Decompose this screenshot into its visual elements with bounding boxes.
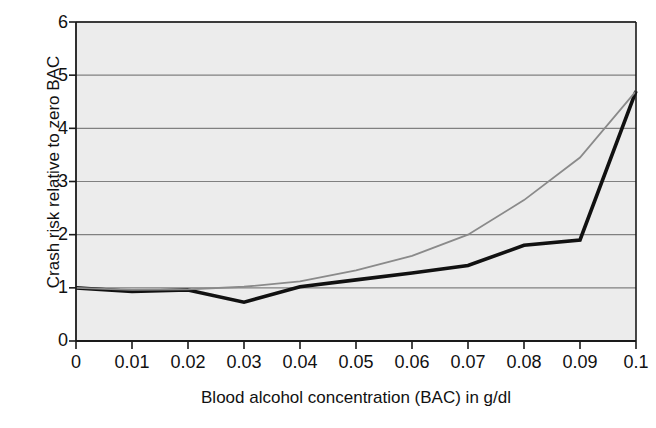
plot-area [0, 0, 656, 428]
chart-figure: Crash risk relative to zero BAC 6 5 4 3 … [0, 0, 656, 428]
